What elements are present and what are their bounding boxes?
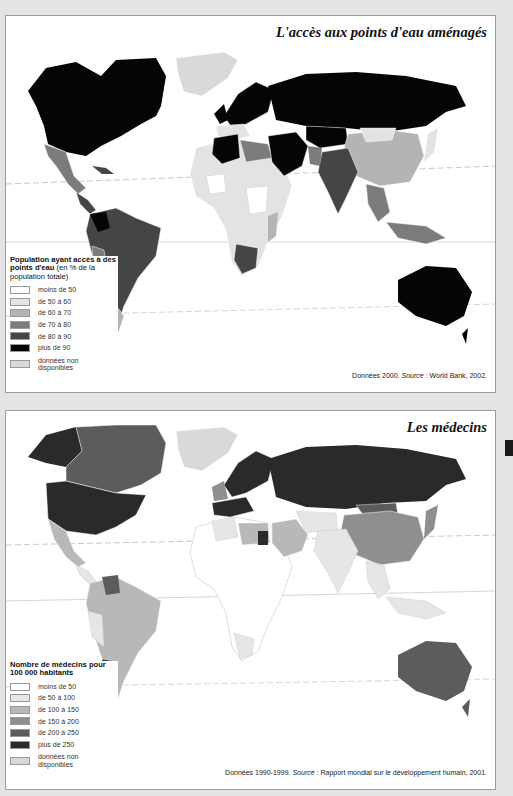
legend-item: de 50 à 60 [10, 296, 118, 308]
legend-swatch [10, 286, 30, 294]
legend-item: de 50 à 100 [10, 692, 118, 704]
legend-swatch [10, 706, 30, 714]
legend-item: de 200 à 250 [10, 727, 118, 739]
source-note: Données 2000. Source : World Bank, 2002. [352, 372, 487, 379]
legend-item: de 100 à 150 [10, 704, 118, 716]
legend-swatch [10, 309, 30, 317]
legend-item: de 80 à 90 [10, 331, 118, 343]
legend-item: plus de 90 [10, 342, 118, 354]
legend-item: de 150 à 200 [10, 716, 118, 728]
legend-item: de 70 à 80 [10, 319, 118, 331]
page-edge-tab [505, 440, 513, 456]
legend-item: données non disponibles [10, 355, 118, 374]
legend-title: Population ayant accès à des points d'ea… [10, 256, 118, 281]
doctors-map-panel: Les médecins Nombre de médecins pour 100… [5, 410, 496, 790]
legend-swatch [10, 360, 30, 368]
legend-swatch [10, 298, 30, 306]
water-access-map-panel: L'accès aux points d'eau aménagés Popula… [5, 15, 496, 393]
legend-title: Nombre de médecins pour 100 000 habitant… [10, 661, 118, 678]
legend-item: moins de 50 [10, 681, 118, 693]
legend-swatch [10, 683, 30, 691]
legend-swatch [10, 321, 30, 329]
legend-item: de 60 à 70 [10, 307, 118, 319]
map-title: Les médecins [407, 419, 487, 436]
map-title: L'accès aux points d'eau aménagés [276, 24, 487, 41]
legend-swatch [10, 757, 30, 765]
source-note: Données 1990-1999. Source : Rapport mond… [225, 769, 487, 776]
legend-swatch [10, 694, 30, 702]
legend-swatch [10, 332, 30, 340]
legend-item: données non disponibles [10, 751, 118, 770]
legend-swatch [10, 729, 30, 737]
legend-swatch [10, 717, 30, 725]
legend-item: moins de 50 [10, 284, 118, 296]
legend: Nombre de médecins pour 100 000 habitant… [10, 661, 118, 770]
legend-item: plus de 250 [10, 739, 118, 751]
legend: Population ayant accès à des points d'ea… [10, 256, 118, 374]
legend-swatch [10, 741, 30, 749]
legend-swatch [10, 344, 30, 352]
